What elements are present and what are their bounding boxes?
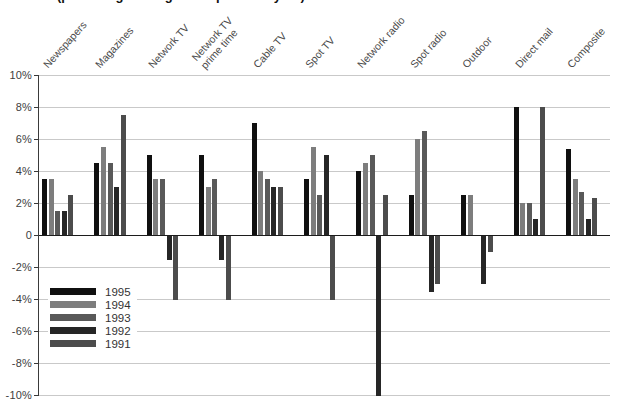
bar-outdoor-1991	[488, 236, 493, 252]
bar-cable-tv-1995	[252, 123, 257, 235]
legend-label-1993: 1993	[105, 312, 131, 324]
bar-spot-tv-1991	[330, 236, 335, 300]
bar-network-tv-1994	[153, 179, 158, 235]
bar-newspapers-1995	[42, 179, 47, 235]
bar-outdoor-1992	[481, 236, 486, 284]
bar-magazines-1995	[94, 163, 99, 235]
bar-network-tv-prime-time-1994	[206, 187, 211, 235]
bar-spot-tv-1992	[324, 155, 329, 235]
bar-spot-radio-1995	[409, 195, 414, 235]
y-tick-label-6: 6%	[0, 133, 32, 145]
bar-spot-radio-1991	[435, 236, 440, 284]
bar-network-radio-1994	[363, 163, 368, 235]
bar-direct-mail-1991	[540, 107, 545, 235]
bar-composite-1992	[586, 219, 591, 235]
y-tick-label--6: -6%	[0, 325, 32, 337]
legend-swatch-1995	[50, 288, 96, 295]
bar-composite-1994	[573, 179, 578, 235]
y-tick-label-2: 2%	[0, 197, 32, 209]
bar-network-tv-prime-time-1991	[226, 236, 231, 300]
bar-newspapers-1994	[49, 179, 54, 235]
chart-title-clipped: (percentage change from previous year)	[0, 0, 619, 5]
legend-item-1994: 1994	[50, 298, 131, 311]
legend-item-1992: 1992	[50, 324, 131, 337]
y-tick-label--10: -10%	[0, 389, 32, 401]
category-label-network-tv-prime-time: Network TV prime time	[190, 15, 244, 71]
bar-network-radio-1995	[356, 171, 361, 235]
legend-item-1993: 1993	[50, 311, 131, 324]
bar-spot-radio-1993	[422, 131, 427, 235]
chart-title-text: (percentage change from previous year)	[57, 0, 619, 3]
gridline-10	[38, 75, 610, 76]
bar-magazines-1991	[121, 115, 126, 235]
legend-swatch-1992	[50, 327, 96, 334]
legend-swatch-1991	[50, 340, 96, 347]
category-label-network-tv: Network TV	[146, 23, 191, 71]
y-tick-label--2: -2%	[0, 261, 32, 273]
bar-cable-tv-1991	[278, 187, 283, 235]
legend-swatch-1993	[50, 314, 96, 321]
legend-swatch-1994	[50, 301, 96, 308]
bar-composite-1995	[566, 149, 571, 235]
bar-network-radio-1992	[376, 236, 381, 396]
category-label-outdoor: Outdoor	[461, 35, 495, 71]
bar-spot-radio-1992	[429, 236, 434, 292]
bar-newspapers-1993	[55, 211, 60, 235]
bar-direct-mail-1992	[533, 219, 538, 235]
legend-label-1995: 1995	[105, 286, 131, 298]
bar-composite-1993	[579, 192, 584, 235]
legend-item-1995: 1995	[50, 285, 131, 298]
legend-item-1991: 1991	[50, 337, 131, 350]
gridline-0	[38, 235, 610, 236]
category-label-network-radio: Network radio	[356, 15, 408, 71]
bar-network-tv-prime-time-1993	[212, 179, 217, 235]
bar-network-tv-1992	[167, 236, 172, 260]
bar-spot-tv-1994	[311, 147, 316, 235]
gridline--2	[38, 267, 610, 268]
bar-network-tv-1993	[160, 179, 165, 235]
y-tick-label-0: 0	[0, 229, 32, 241]
bar-magazines-1994	[101, 147, 106, 235]
y-axis-line	[38, 75, 39, 396]
bar-direct-mail-1995	[514, 107, 519, 235]
bar-cable-tv-1994	[258, 171, 263, 235]
bar-spot-tv-1995	[304, 179, 309, 235]
category-label-spot-radio: Spot radio	[408, 28, 449, 71]
y-tick-label-4: 4%	[0, 165, 32, 177]
category-label-composite: Composite	[565, 26, 607, 71]
bar-network-tv-prime-time-1992	[219, 236, 224, 260]
bar-network-tv-1991	[173, 236, 178, 300]
legend-label-1992: 1992	[105, 325, 131, 337]
bar-outdoor-1995	[461, 195, 466, 235]
gridline--8	[38, 363, 610, 364]
y-tick-label--4: -4%	[0, 293, 32, 305]
bar-outdoor-1994	[468, 195, 473, 235]
bar-magazines-1992	[114, 187, 119, 235]
bar-newspapers-1991	[68, 195, 73, 235]
bar-newspapers-1992	[62, 211, 67, 235]
y-tick-label-10: 10%	[0, 69, 32, 81]
gridline--10	[38, 395, 610, 396]
bar-network-radio-1993	[370, 155, 375, 235]
legend-label-1994: 1994	[105, 299, 131, 311]
legend-label-1991: 1991	[105, 338, 131, 350]
bar-network-radio-1991	[383, 195, 388, 235]
bar-cable-tv-1992	[271, 187, 276, 235]
bar-network-tv-1995	[147, 155, 152, 235]
category-label-spot-tv: Spot TV	[303, 35, 337, 71]
ad-volume-change-chart: (percentage change from previous year) 1…	[0, 0, 619, 411]
bar-magazines-1993	[108, 163, 113, 235]
category-label-newspapers: Newspapers	[41, 20, 89, 71]
gridline-8	[38, 107, 610, 108]
bar-network-tv-prime-time-1995	[199, 155, 204, 235]
y-tick-label-8: 8%	[0, 101, 32, 113]
category-label-magazines: Magazines	[94, 26, 137, 71]
bar-spot-tv-1993	[317, 195, 322, 235]
bar-composite-1991	[592, 198, 597, 235]
category-label-direct-mail: Direct mail	[513, 26, 555, 71]
y-tick-label--8: -8%	[0, 357, 32, 369]
category-label-cable-tv: Cable TV	[251, 31, 289, 71]
bar-direct-mail-1994	[520, 203, 525, 235]
legend: 19951994199319921991	[48, 283, 137, 352]
bar-spot-radio-1994	[415, 139, 420, 235]
